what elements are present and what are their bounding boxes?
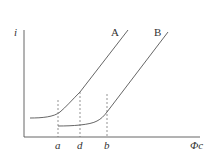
curve-a: [30, 30, 128, 118]
marker-d-label: d: [77, 139, 83, 151]
x-axis-label: Φc: [190, 139, 203, 151]
curve-a-label: A: [111, 26, 119, 38]
chart-svg: i Φc A B a d b: [0, 0, 216, 160]
curve-b: [58, 32, 168, 126]
curve-b-label: B: [154, 26, 161, 38]
diagram-canvas: i Φc A B a d b: [0, 0, 216, 160]
marker-b-label: b: [104, 139, 110, 151]
marker-a-label: a: [55, 139, 61, 151]
y-axis-label: i: [14, 26, 17, 38]
